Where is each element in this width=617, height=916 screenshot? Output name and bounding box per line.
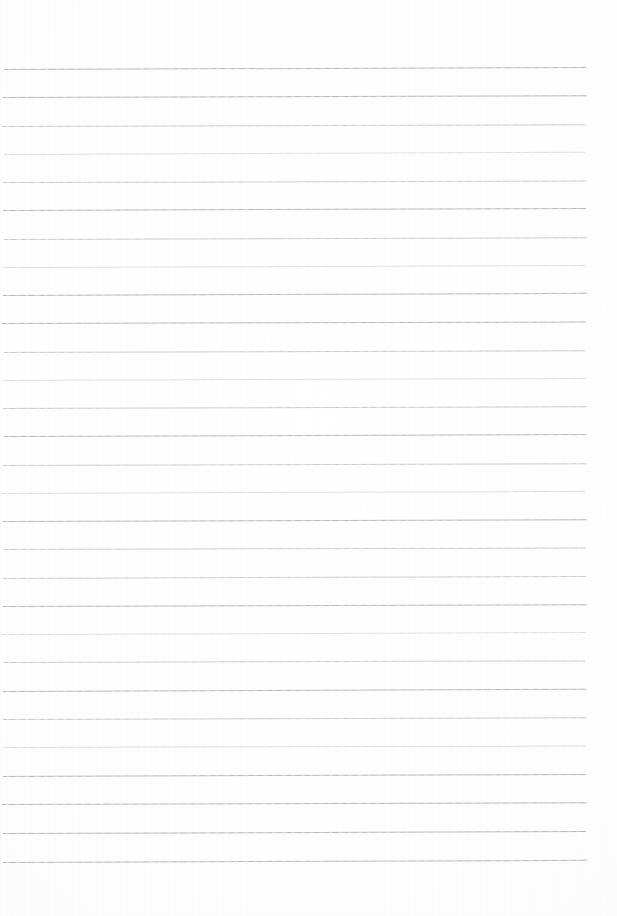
rule-line: [3, 406, 587, 409]
rule-line: [3, 463, 586, 466]
rule-line: [3, 208, 586, 211]
scanned-page: [0, 0, 617, 916]
rule-line: [4, 67, 586, 70]
rule-line: [4, 152, 585, 155]
rule-line: [2, 321, 586, 324]
rule-line: [4, 350, 585, 353]
rule-line: [3, 604, 587, 607]
rule-line: [4, 547, 586, 550]
rule-line: [3, 576, 586, 579]
rule-line: [3, 95, 587, 98]
rule-line: [4, 745, 586, 748]
rule-line: [3, 519, 587, 522]
rule-line: [4, 660, 585, 663]
rule-line: [3, 293, 587, 296]
rule-line: [3, 831, 586, 834]
rule-line: [2, 491, 585, 494]
rule-line: [3, 689, 586, 692]
rule-line: [3, 774, 586, 777]
rule-line: [4, 237, 587, 240]
rule-line: [3, 181, 586, 183]
rule-line: [3, 378, 586, 381]
rule-line: [2, 124, 586, 127]
rule-line: [2, 632, 586, 635]
rule-line: [2, 802, 587, 805]
rule-line: [4, 434, 586, 437]
rule-line: [3, 717, 587, 720]
rule-line: [3, 265, 586, 268]
rule-line: [3, 860, 587, 863]
ruled-lines-layer: [0, 0, 617, 916]
